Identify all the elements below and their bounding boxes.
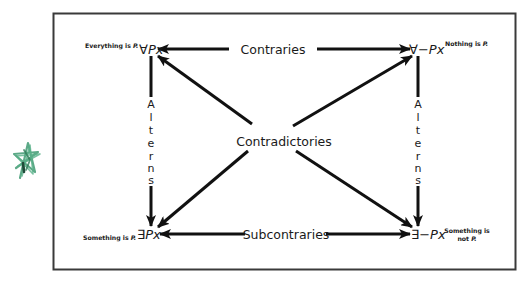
contraries-label: Contraries: [241, 42, 306, 57]
caption-something-is-p: Something is P.: [83, 234, 136, 242]
formula-universal-negative: ∀−Px: [409, 42, 445, 57]
caption-something-is-not-p-line2: not P.: [457, 235, 476, 242]
formula-universal-affirmative: ∀Px: [139, 42, 164, 57]
alterns-letter: l: [149, 111, 152, 124]
alterns-letter: t: [149, 124, 154, 137]
alterns-letter: l: [416, 111, 419, 124]
caption-nothing-is-p: Nothing is P.: [445, 40, 488, 48]
square-of-opposition-diagram: Contraries Subcontraries Contradictories…: [0, 0, 526, 282]
alterns-letter: e: [148, 137, 155, 150]
subcontraries-label: Subcontraries: [243, 227, 330, 242]
formula-particular-negative: ∃−Px: [411, 227, 446, 242]
star-icon: [14, 143, 40, 178]
contradictories-label: Contradictories: [236, 134, 332, 149]
formula-particular-affirmative: ∃Px: [137, 227, 161, 242]
alterns-letter: s: [148, 174, 154, 187]
alterns-letter: t: [416, 124, 421, 137]
caption-something-is-not-p: Something is: [444, 227, 490, 235]
alterns-letter: e: [415, 137, 422, 150]
alterns-letter: A: [414, 98, 422, 111]
alterns-letter: s: [415, 174, 421, 187]
alterns-letter: A: [147, 98, 155, 111]
caption-everything-is-p: Everything is P.: [85, 42, 138, 50]
